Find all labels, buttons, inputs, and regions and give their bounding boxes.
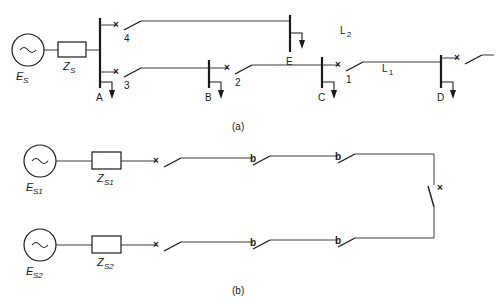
busD-tap-line xyxy=(441,82,453,90)
impedance-box-zs xyxy=(58,42,86,57)
feeder1-switch-2-b-icon: b xyxy=(250,153,256,164)
feeder2-switch-1-x-icon: × xyxy=(153,239,159,250)
switch-d-x-icon: × xyxy=(454,52,460,63)
ac-tilde-icon xyxy=(20,48,36,53)
switch-1-label: 1 xyxy=(346,74,352,85)
feeder1-switch-1-blade xyxy=(164,158,181,167)
feeder2-switch-3-b-icon: b xyxy=(335,235,341,246)
busE-tap-line xyxy=(290,33,302,40)
busB-current-arrow xyxy=(218,90,224,99)
bus-A-label: A xyxy=(96,92,103,103)
impedance-box-zs2 xyxy=(92,236,121,253)
feeder2-emf-sub: S2 xyxy=(33,271,43,280)
switch-4-x-icon: × xyxy=(113,19,119,30)
feeder1-switch-3[interactable]: b xyxy=(335,151,355,163)
busA-current-arrow xyxy=(109,90,115,99)
switch-1[interactable]: × xyxy=(335,59,363,71)
bus-B-label: B xyxy=(205,92,212,103)
source-Es1 xyxy=(24,145,56,177)
switch-1-blade xyxy=(346,62,363,71)
impedance-sub: S xyxy=(70,66,76,75)
tie-switch-x-icon: × xyxy=(437,182,443,193)
figure-root: E S Z S A × 4 E xyxy=(0,0,498,305)
tie-switch-blade xyxy=(428,186,434,207)
switch-3-blade xyxy=(124,68,141,77)
switch-2-blade xyxy=(235,65,252,74)
feeder1-switch-3-b-icon: b xyxy=(335,151,341,162)
feeder2-switch-2-b-icon: b xyxy=(250,237,256,248)
feeder1-emf-sub: S1 xyxy=(33,187,43,196)
feeder1-switch-2[interactable]: b xyxy=(250,153,270,165)
feeder2-switch-2[interactable]: b xyxy=(250,237,270,249)
busC-tap-line xyxy=(322,82,334,90)
switch-4-blade xyxy=(124,21,141,30)
switch-d-blade xyxy=(465,55,482,64)
line-L1-sub: 1 xyxy=(389,68,393,77)
diagram-b: E S1 Z S1 × b b xyxy=(24,145,443,296)
feeder2-switch-3[interactable]: b xyxy=(335,235,355,247)
switch-3[interactable]: × xyxy=(113,66,141,77)
source-emf-sub: S xyxy=(23,76,29,85)
switch-d[interactable]: × xyxy=(454,52,482,64)
line-L1-label: L xyxy=(382,63,388,74)
switch-1-x-icon: × xyxy=(335,59,341,70)
impedance-box-zs1 xyxy=(92,152,121,169)
bus-D-label: D xyxy=(437,92,444,103)
busA-tap-line xyxy=(100,82,112,90)
feeder2-impedance-sub: S2 xyxy=(104,262,114,271)
bus-C-label: C xyxy=(318,92,325,103)
feeder2-switch-1-blade xyxy=(164,242,181,251)
feeder1-impedance-sub: S1 xyxy=(104,178,114,187)
ac-tilde-icon-2 xyxy=(32,243,48,248)
caption-a: (a) xyxy=(232,121,244,132)
feeder2-switch-1[interactable]: × xyxy=(153,239,181,251)
line-L2-sub: 2 xyxy=(347,30,351,39)
diagram-a: E S Z S A × 4 E xyxy=(12,15,494,132)
switch-3-label: 3 xyxy=(124,80,130,91)
busB-tap-line xyxy=(209,82,221,90)
caption-b: (b) xyxy=(232,285,244,296)
busD-current-arrow xyxy=(450,90,456,99)
feeder1-switch-1-x-icon: × xyxy=(153,155,159,166)
line-L2-label: L xyxy=(340,25,346,36)
busE-current-arrow xyxy=(299,40,305,49)
switch-4[interactable]: × xyxy=(113,19,141,30)
tie-switch[interactable]: × xyxy=(428,182,443,207)
busC-current-arrow xyxy=(331,90,337,99)
ac-tilde-icon-1 xyxy=(32,159,48,164)
switch-2-label: 2 xyxy=(235,77,241,88)
feeder1-switch-1[interactable]: × xyxy=(153,155,181,167)
switch-2[interactable]: × xyxy=(224,62,252,74)
power-system-diagram: E S Z S A × 4 E xyxy=(0,0,498,305)
switch-2-x-icon: × xyxy=(224,62,230,73)
source-Es xyxy=(12,34,44,66)
switch-3-x-icon: × xyxy=(113,66,119,77)
source-Es2 xyxy=(24,229,56,261)
switch-4-label: 4 xyxy=(124,33,130,44)
